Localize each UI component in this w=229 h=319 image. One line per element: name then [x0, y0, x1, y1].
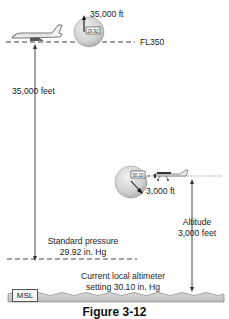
msl-label: MSL	[12, 289, 38, 302]
flight-level-label: FL350	[140, 37, 164, 47]
upper-height-label: 35,000 feet	[12, 86, 55, 96]
local-altimeter-label-line2: setting 30.10 in. Hg	[68, 282, 178, 292]
standard-pressure-label-line1: Standard pressure	[38, 236, 128, 246]
sea-level-surface	[8, 293, 224, 303]
figure-caption: Figure 3-12	[0, 305, 229, 319]
lower-indicated-altitude-label: 3,000 ft	[146, 186, 175, 196]
lower-altitude-label-line2: 3,000 feet	[167, 228, 227, 238]
local-altimeter-label-line1: Current local altimeter	[68, 271, 178, 281]
upper-indicated-altitude-label: 35,000 ft	[90, 9, 123, 19]
kollsman-window-lower: 30.10	[132, 173, 144, 178]
light-airplane-icon	[153, 170, 188, 181]
altimeter-dial-lower-icon	[115, 166, 147, 198]
height-arrow-35000	[33, 44, 37, 261]
lower-altitude-label-line1: Altitude	[172, 217, 222, 227]
jet-airliner-icon	[12, 25, 62, 41]
standard-pressure-label-line2: 29.92 in. Hg	[38, 247, 128, 257]
kollsman-window-upper: 29.92	[87, 29, 99, 34]
